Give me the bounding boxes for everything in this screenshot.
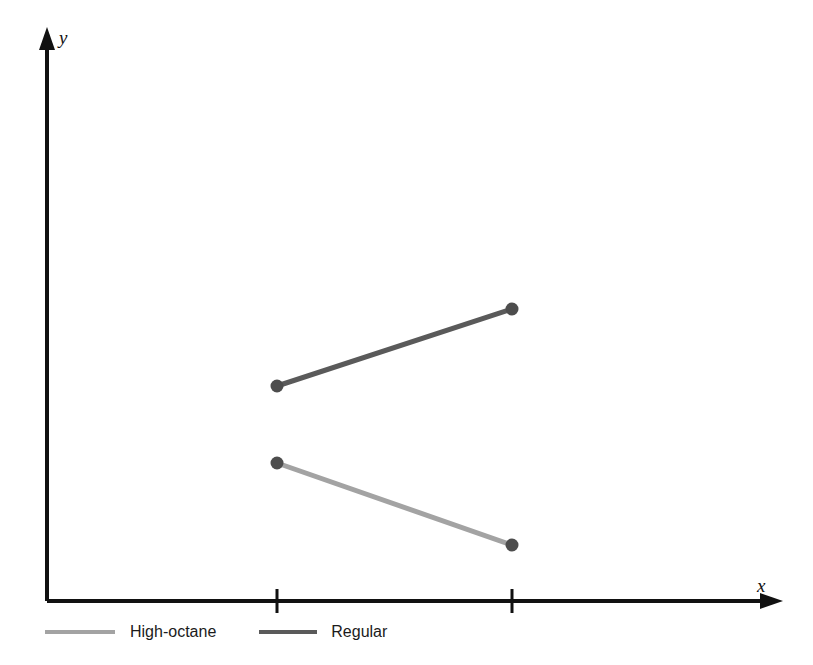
legend-item-regular: Regular [259,624,387,640]
interaction-plot-figure: y x High-octane Regular [0,0,813,665]
legend-item-high-octane: High-octane [45,624,216,640]
chart-legend: High-octane Regular [45,620,387,644]
data-point-marker [271,380,284,393]
legend-item-label: High-octane [130,624,216,640]
data-point-marker [506,539,519,552]
legend-swatch-icon [259,630,317,634]
plot-canvas [0,0,813,665]
series-line-regular [277,309,512,386]
legend-swatch-icon [45,630,115,634]
legend-item-label: Regular [331,624,387,640]
y-axis-arrowhead [39,27,55,50]
data-point-marker [506,303,519,316]
data-point-marker [271,457,284,470]
y-axis-label: y [59,28,67,47]
series-line-high-octane [277,463,512,545]
x-axis-label: x [757,576,765,595]
